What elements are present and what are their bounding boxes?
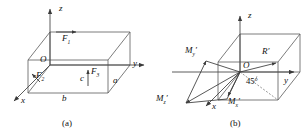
panel-b-caption: (b)	[230, 118, 241, 128]
moment-mx-symbol: M	[228, 96, 236, 106]
moment-mx-label: Mx′	[228, 96, 240, 108]
force-f1-subscript: 1	[68, 39, 71, 45]
force-f3-subscript: 3	[97, 72, 100, 78]
panel-b-axes	[172, 16, 294, 106]
moment-mz-symbol: M	[156, 93, 164, 103]
box-top-face	[218, 34, 300, 62]
axis-label-z: z	[248, 10, 252, 20]
moment-my-arrow	[186, 61, 206, 103]
axis-label-x: x	[212, 101, 216, 111]
dim-label-b: b	[62, 93, 67, 103]
figure-drawing	[0, 0, 307, 139]
moment-my-label: My′	[185, 45, 197, 57]
dim-label-a: a	[113, 75, 118, 85]
moment-mx-prime: ′	[238, 96, 240, 106]
moment-my-prime: ′	[195, 45, 197, 55]
force-f2-subscript: 2	[42, 76, 45, 82]
force-f2-label: F2	[36, 70, 44, 82]
axis-x-line	[14, 65, 50, 101]
axis-label-z: z	[59, 3, 63, 13]
panel-a-caption: (a)	[62, 118, 72, 128]
force-f1-label: F1	[62, 33, 70, 45]
moment-mz-label: Mz′	[156, 93, 168, 105]
resultant-label-r: R′	[262, 46, 269, 56]
axis-label-x: x	[21, 95, 25, 105]
moment-par-edge-1	[206, 61, 240, 72]
origin-label-o: O	[40, 54, 47, 64]
moment-my-symbol: M	[185, 45, 193, 55]
dim-label-c: c	[80, 73, 84, 83]
panel-a-axes	[14, 9, 144, 101]
axis-label-y: y	[133, 58, 137, 68]
resultant-prime: ′	[268, 46, 270, 56]
figure-container: z y x O F1 F2 F3 a b c (a) z y x O R′ My…	[0, 0, 307, 139]
origin-label-o: O	[243, 60, 250, 70]
angle-45-label: 45°	[246, 76, 258, 86]
force-f3-label: F3	[91, 66, 99, 78]
axis-label-y: y	[284, 75, 288, 85]
moment-mz-prime: ′	[166, 93, 168, 103]
